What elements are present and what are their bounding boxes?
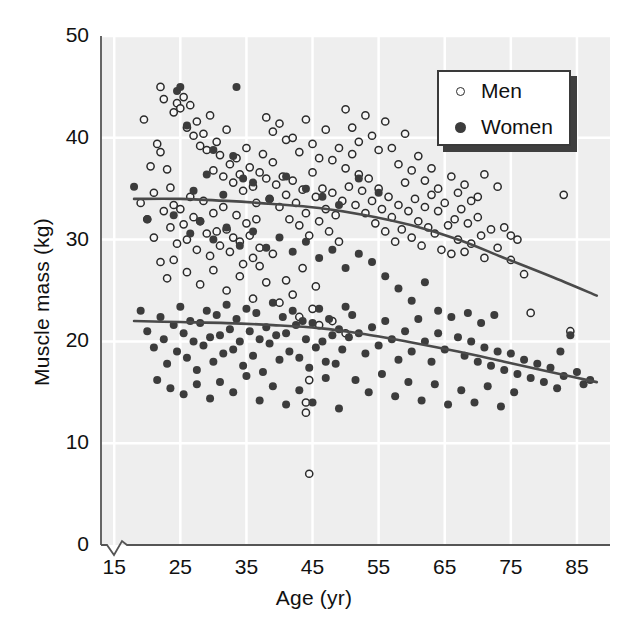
x-tick-label: 55 (356, 555, 402, 579)
x-tick-label: 45 (290, 555, 336, 579)
y-tick-label: 30 (43, 227, 89, 251)
x-tick-label: 65 (422, 555, 468, 579)
x-tick-label: 15 (91, 555, 137, 579)
y-tick-label: 20 (43, 328, 89, 352)
x-tick-label: 25 (157, 555, 203, 579)
legend-label-women: Women (481, 115, 553, 139)
x-tick-label: 85 (554, 555, 600, 579)
legend-label-men: Men (481, 79, 522, 103)
y-tick-label: 50 (43, 23, 89, 47)
open-circle-icon (447, 87, 473, 96)
y-tick-label: 0 (43, 532, 89, 556)
y-tick-label: 10 (43, 430, 89, 454)
x-tick-label: 35 (223, 555, 269, 579)
chart-figure: Muscle mass (kg) Age (yr) 01020304050 15… (0, 0, 628, 635)
filled-circle-icon (447, 122, 473, 133)
x-tick-label: 75 (488, 555, 534, 579)
legend-entry-men: Men (439, 72, 569, 110)
chart-legend: Men Women (437, 70, 571, 146)
legend-entry-women: Women (439, 108, 569, 146)
y-tick-label: 40 (43, 125, 89, 149)
